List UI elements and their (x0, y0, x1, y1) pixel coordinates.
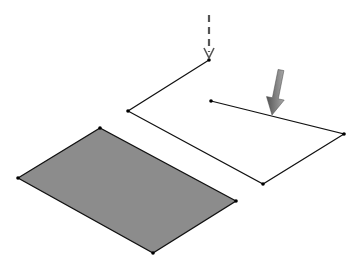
filled-face[interactable] (18, 128, 236, 253)
vertex-point[interactable] (342, 132, 346, 136)
dashed-arrow-icon (204, 15, 214, 58)
vertex-point[interactable] (261, 182, 265, 186)
vertex-point[interactable] (234, 199, 238, 203)
vertex-point[interactable] (151, 251, 155, 255)
diagram-canvas (0, 0, 358, 260)
vertex-point[interactable] (98, 126, 102, 130)
vertex-point[interactable] (126, 109, 130, 113)
selection-arrow-icon (267, 69, 285, 115)
vertex-point[interactable] (16, 176, 20, 180)
vertex-point[interactable] (209, 99, 213, 103)
